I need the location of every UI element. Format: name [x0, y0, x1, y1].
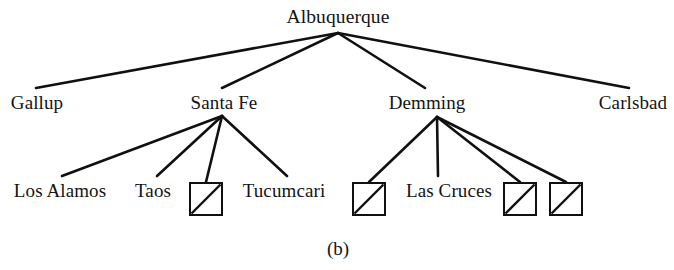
tree-edge-albuquerque-to-gallup [36, 33, 338, 88]
tree-edge-santafe-to-losalamos [62, 116, 222, 176]
tree-node-label-demming: Demming [389, 93, 466, 112]
tree-edges [0, 0, 674, 270]
empty-node-box-box3 [503, 182, 537, 216]
tree-edge-demming-to-box4 [437, 117, 566, 182]
box-diagonal-icon [503, 182, 537, 216]
tree-node-label-losalamos: Los Alamos [14, 181, 106, 200]
tree-node-label-carlsbad: Carlsbad [599, 93, 667, 112]
box-diagonal-icon [549, 182, 583, 216]
tree-edge-demming-to-box2 [369, 117, 437, 182]
tree-edge-demming-to-lascruces [437, 117, 438, 176]
empty-node-box-box2 [352, 182, 386, 216]
tree-diagram-figure: AlbuquerqueGallupSanta FeDemmingCarlsbad… [0, 0, 674, 270]
empty-node-box-box4 [549, 182, 583, 216]
tree-edge-santafe-to-box1 [206, 116, 222, 182]
box-diagonal-icon [352, 182, 386, 216]
tree-node-label-taos: Taos [135, 181, 171, 200]
tree-node-label-santafe: Santa Fe [191, 93, 258, 112]
tree-edge-santafe-to-taos [157, 116, 222, 176]
tree-edge-demming-to-box3 [437, 117, 520, 182]
figure-caption: (b) [327, 239, 349, 258]
tree-node-label-albuquerque: Albuquerque [287, 7, 390, 26]
box-diagonal-icon [189, 182, 223, 216]
tree-node-label-gallup: Gallup [11, 93, 63, 112]
tree-edge-santafe-to-tucumcari [222, 116, 287, 176]
empty-node-box-box1 [189, 182, 223, 216]
tree-node-label-tucumcari: Tucumcari [243, 181, 326, 200]
tree-node-label-lascruces: Las Cruces [406, 181, 492, 200]
tree-edge-albuquerque-to-santafe [222, 33, 338, 88]
